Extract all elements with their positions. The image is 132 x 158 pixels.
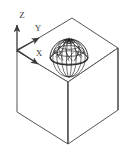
y-axis-label: Y bbox=[35, 23, 42, 33]
cube-dome-diagram: Z Y X bbox=[0, 0, 132, 158]
cube-group bbox=[17, 18, 118, 144]
x-axis-label: X bbox=[36, 48, 43, 58]
figure-canvas: Z Y X bbox=[0, 0, 132, 158]
z-axis-label: Z bbox=[19, 10, 25, 20]
